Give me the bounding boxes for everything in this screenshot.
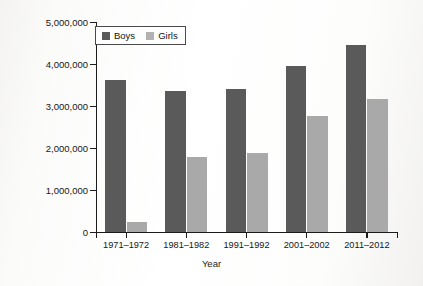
y-axis-tick-mark [90,106,96,107]
legend-swatch-icon [146,32,154,40]
x-axis-tick-label: 2001–2002 [284,240,330,250]
bar-girls [247,153,268,232]
x-axis-tick-mark [126,232,127,238]
x-axis-tick-mark [366,232,367,238]
bar-girls [307,116,328,232]
y-axis-tick-mark [90,22,96,23]
y-axis-tick-label: 4,000,000 [46,59,88,70]
y-axis-tick-mark [90,64,96,65]
chart-legend: BoysGirls [95,26,186,45]
plot-area: 01,000,0002,000,0003,000,0004,000,0005,0… [96,22,397,232]
bar-boys [346,45,367,232]
y-axis-tick-label: 1,000,000 [46,185,88,196]
bar-girls [367,99,388,232]
x-axis-tick-label: 1981–1982 [163,240,209,250]
bar-girls [127,222,148,233]
legend-entry-girls: Girls [146,30,178,41]
y-axis-tick-label: 3,000,000 [46,101,88,112]
x-axis-end-tick-mark [397,232,398,238]
legend-swatch-icon [102,32,110,40]
x-axis-tick-mark [186,232,187,238]
bar-boys [286,66,307,232]
x-axis-tick-label: 1971–1972 [103,240,149,250]
bar-boys [226,89,247,232]
x-axis-end-tick-mark [96,232,97,238]
legend-entry-boys: Boys [102,30,135,41]
y-axis-tick-label: 2,000,000 [46,143,88,154]
y-axis-tick-label: 5,000,000 [46,17,88,28]
bar-girls [187,157,208,232]
x-axis-tick-mark [306,232,307,238]
y-axis-tick-mark [90,148,96,149]
x-axis-tick-mark [246,232,247,238]
x-axis-tick-label: 1991–1992 [224,240,270,250]
legend-label: Girls [158,30,178,41]
y-axis-tick-label: 0 [83,227,88,238]
bar-boys [165,91,186,232]
bar-chart-figure: Participation Numbers 01,000,0002,000,00… [0,0,423,286]
legend-label: Boys [114,30,135,41]
bar-boys [105,80,126,232]
y-axis-tick-mark [90,190,96,191]
x-axis-title: Year [0,258,423,269]
x-axis-tick-label: 2011–2012 [344,240,389,250]
